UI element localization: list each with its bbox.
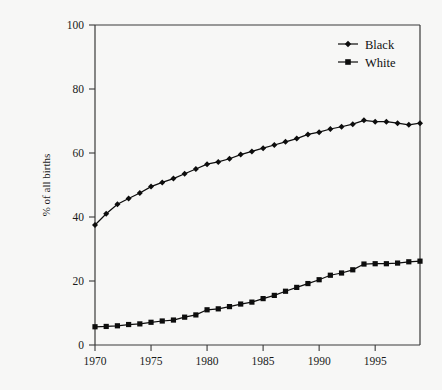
data-point-marker bbox=[384, 261, 389, 266]
data-point-marker bbox=[373, 261, 378, 266]
y-axis-title: % of all births bbox=[40, 154, 52, 217]
x-tick-label: 1970 bbox=[84, 355, 107, 367]
data-point-marker bbox=[115, 323, 120, 328]
data-point-marker bbox=[417, 259, 422, 264]
legend-label-white: White bbox=[365, 56, 396, 70]
data-point-marker bbox=[104, 324, 109, 329]
data-point-marker bbox=[126, 322, 131, 327]
x-tick-label: 1985 bbox=[252, 355, 275, 367]
data-point-marker bbox=[361, 261, 366, 266]
data-point-marker bbox=[406, 259, 411, 264]
x-tick-label: 1975 bbox=[140, 355, 163, 367]
line-chart: 020406080100 197019751980198519901995 % … bbox=[0, 0, 442, 390]
data-point-marker bbox=[272, 293, 277, 298]
legend-marker-white bbox=[345, 59, 351, 65]
data-point-marker bbox=[238, 301, 243, 306]
y-tick-label: 0 bbox=[78, 339, 84, 351]
data-point-marker bbox=[171, 317, 176, 322]
data-point-marker bbox=[204, 307, 209, 312]
data-point-marker bbox=[137, 321, 142, 326]
data-point-marker bbox=[249, 300, 254, 305]
x-tick-label: 1980 bbox=[196, 355, 219, 367]
data-point-marker bbox=[261, 296, 266, 301]
data-point-marker bbox=[193, 312, 198, 317]
legend-label-black: Black bbox=[365, 38, 395, 52]
x-tick-label: 1990 bbox=[308, 355, 331, 367]
x-tick-label: 1995 bbox=[364, 355, 387, 367]
data-point-marker bbox=[294, 285, 299, 290]
data-point-marker bbox=[160, 318, 165, 323]
data-point-marker bbox=[227, 304, 232, 309]
y-tick-label: 20 bbox=[73, 275, 85, 287]
y-tick-label: 60 bbox=[73, 147, 85, 159]
chart-figure: 020406080100 197019751980198519901995 % … bbox=[0, 0, 442, 390]
data-point-marker bbox=[216, 306, 221, 311]
data-point-marker bbox=[283, 289, 288, 294]
y-tick-label: 80 bbox=[73, 83, 85, 95]
data-point-marker bbox=[305, 281, 310, 286]
data-point-marker bbox=[317, 277, 322, 282]
data-point-marker bbox=[328, 273, 333, 278]
data-point-marker bbox=[182, 315, 187, 320]
y-tick-label: 100 bbox=[67, 19, 85, 31]
data-point-marker bbox=[339, 270, 344, 275]
data-point-marker bbox=[92, 324, 97, 329]
data-point-marker bbox=[148, 320, 153, 325]
data-point-marker bbox=[350, 267, 355, 272]
y-tick-label: 40 bbox=[73, 211, 85, 223]
data-point-marker bbox=[395, 260, 400, 265]
